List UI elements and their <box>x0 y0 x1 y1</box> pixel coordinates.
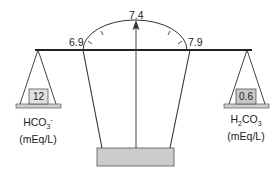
right-pan <box>224 104 269 108</box>
balance-scale-drawing <box>0 0 277 173</box>
scale-base <box>97 148 174 166</box>
stand-right-leg <box>170 50 190 148</box>
right-species-unit: (mEq/L) <box>227 130 264 142</box>
right-weight-value: 0.6 <box>236 92 256 102</box>
right-species-formula: H2CO3 <box>230 113 261 125</box>
gauge-label-center: 7.4 <box>129 10 144 21</box>
left-species-formula: HCO3- <box>23 116 53 128</box>
stand-left-leg <box>83 50 102 148</box>
gauge-label-high: 7.9 <box>188 37 203 48</box>
left-pan <box>16 104 61 108</box>
left-species-label: HCO3- (mEq/L) <box>8 113 68 145</box>
gauge-label-low: 6.9 <box>69 37 84 48</box>
gauge-ticks <box>88 31 182 44</box>
left-species-unit: (mEq/L) <box>19 133 56 145</box>
right-species-label: H2CO3 (mEq/L) <box>216 113 276 142</box>
left-weight-value: 12 <box>29 92 48 102</box>
